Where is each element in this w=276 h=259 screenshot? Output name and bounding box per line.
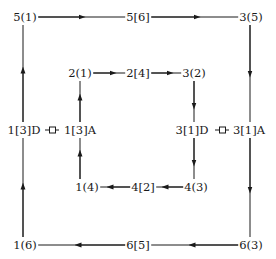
node-inner-bottom-mid: 4[2]: [130, 180, 156, 194]
square-link-icon: [215, 127, 229, 134]
node-outer-bottom-left: 1(6): [12, 238, 38, 252]
node-inner-right-mid: 3[1]D: [175, 123, 210, 137]
node-inner-bottom-right: 4(3): [183, 180, 209, 194]
node-inner-top-mid: 2[4]: [125, 66, 151, 80]
node-inner-top-left: 2(1): [67, 66, 93, 80]
flow-diagram: 5(1) 5[6] 3(5) 1[3]D 3[1]A 1(6) 6[5] 6(3…: [0, 0, 276, 259]
node-inner-left-mid: 1[3]A: [63, 123, 97, 137]
node-outer-top-right: 3(5): [238, 10, 264, 24]
node-outer-top-left: 5(1): [12, 10, 38, 24]
node-outer-right-mid: 3[1]A: [232, 123, 266, 137]
node-outer-left-mid: 1[3]D: [7, 123, 42, 137]
node-inner-bottom-left: 1(4): [74, 180, 100, 194]
node-inner-top-right: 3(2): [181, 66, 207, 80]
square-link-icon: [45, 127, 59, 134]
node-outer-bottom-right: 6(3): [238, 238, 264, 252]
node-outer-top-mid: 5[6]: [125, 10, 151, 24]
node-outer-bottom-mid: 6[5]: [125, 238, 151, 252]
